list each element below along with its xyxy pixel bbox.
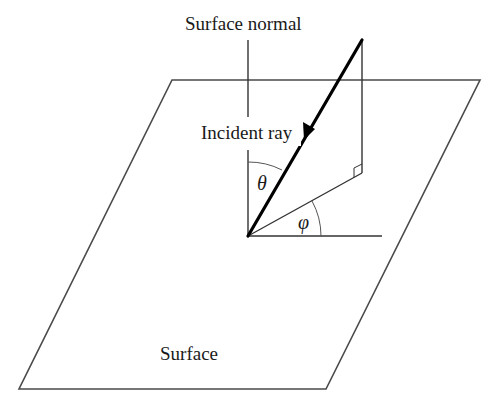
surface-normal-label: Surface normal: [185, 13, 302, 34]
surface-label: Surface: [160, 343, 218, 364]
theta-arc: [248, 162, 282, 170]
theta-label: θ: [257, 172, 267, 194]
phi-arc: [312, 201, 321, 236]
incident-ray-label: Incident ray: [201, 122, 293, 143]
phi-label: φ: [298, 211, 309, 234]
incident-ray-diagram: Surface normal Incident ray Surface θ φ: [0, 0, 494, 414]
